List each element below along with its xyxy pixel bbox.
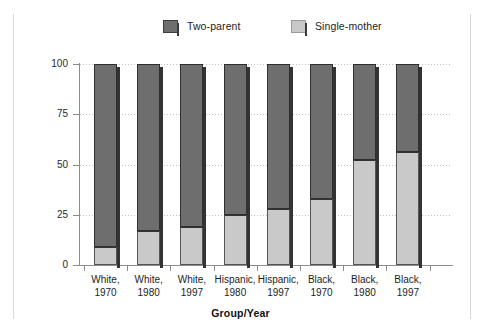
- bar-stack: [396, 64, 419, 265]
- y-axis-tick: [73, 265, 80, 266]
- x-axis-tick: [257, 265, 258, 271]
- bar-stack: [353, 64, 376, 265]
- bar-shadow: [247, 67, 250, 268]
- bar-segment-two-parent: [137, 64, 160, 231]
- y-axis-tick-label: 25: [34, 210, 68, 220]
- x-axis-tick: [300, 265, 301, 271]
- legend-swatch-single-mother: [291, 20, 306, 33]
- x-axis-tick: [84, 265, 85, 271]
- bar-stack: [267, 64, 290, 265]
- bar-segment-single-mother: [310, 199, 333, 265]
- bar-segment-two-parent: [310, 64, 333, 199]
- legend-label-two-parent: Two-parent: [187, 20, 241, 32]
- frame-right-rule: [470, 14, 471, 319]
- bar-segment-single-mother: [94, 247, 117, 265]
- bar-segment-two-parent: [396, 64, 419, 152]
- x-axis-tick: [127, 265, 128, 271]
- bar-shadow: [419, 67, 422, 268]
- x-axis-tick-label-line: Black,: [376, 274, 440, 287]
- bar-shadow: [203, 67, 206, 268]
- y-axis-tick-label: 100: [34, 59, 68, 69]
- legend-item-two-parent: Two-parent: [163, 18, 241, 34]
- x-axis-tick: [430, 265, 431, 271]
- bar-stack: [94, 64, 117, 265]
- plot-area: 0255075100: [80, 64, 452, 265]
- bar-segment-two-parent: [224, 64, 247, 215]
- y-axis-tick-label: 0: [34, 260, 68, 270]
- y-axis-tick-label: 50: [34, 160, 68, 170]
- x-axis-tick: [343, 265, 344, 271]
- y-axis-tick: [73, 165, 80, 166]
- bar-stack: [224, 64, 247, 265]
- bar-segment-single-mother: [396, 152, 419, 265]
- bar-shadow: [290, 67, 293, 268]
- bar-segment-single-mother: [137, 231, 160, 265]
- bar-shadow: [333, 67, 336, 268]
- legend-label-single-mother: Single-mother: [315, 20, 382, 32]
- bar-segment-two-parent: [353, 64, 376, 160]
- bar-shadow: [160, 67, 163, 268]
- bar-segment-single-mother: [353, 160, 376, 265]
- chart-root: Two-parent Single-mother Percent 0255075…: [0, 0, 481, 333]
- x-axis-tick: [170, 265, 171, 271]
- x-axis-title: Group/Year: [0, 307, 481, 319]
- bar-segment-single-mother: [180, 227, 203, 265]
- bar-stack: [137, 64, 160, 265]
- bar-segment-two-parent: [94, 64, 117, 247]
- bar-segment-two-parent: [180, 64, 203, 227]
- y-axis-tick: [73, 114, 80, 115]
- bar-segment-single-mother: [224, 215, 247, 265]
- legend-swatch-two-parent: [163, 20, 178, 33]
- x-axis-line: [79, 265, 453, 266]
- x-axis-tick: [386, 265, 387, 271]
- legend-item-single-mother: Single-mother: [291, 18, 382, 34]
- x-axis-tick: [214, 265, 215, 271]
- y-axis-tick-label: 75: [34, 109, 68, 119]
- bar-shadow: [117, 67, 120, 268]
- bar-stack: [180, 64, 203, 265]
- bar-segment-single-mother: [267, 209, 290, 265]
- x-axis-tick-label: Black,1997: [376, 274, 440, 299]
- y-axis-tick: [73, 64, 80, 65]
- frame-left-rule: [13, 14, 14, 319]
- y-axis-tick: [73, 215, 80, 216]
- bar-stack: [310, 64, 333, 265]
- x-axis-tick-label-line: 1997: [376, 287, 440, 300]
- bar-shadow: [376, 67, 379, 268]
- chart-legend: Two-parent Single-mother: [0, 18, 481, 34]
- bar-segment-two-parent: [267, 64, 290, 209]
